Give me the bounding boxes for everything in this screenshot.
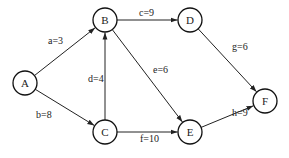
node-label-F: F xyxy=(262,95,268,107)
edge-label-c: c=9 xyxy=(139,7,154,18)
node-B: B xyxy=(93,8,117,32)
graph-diagram: a=3b=8c=9d=4e=6f=10g=6h=9 ABCDEF xyxy=(0,0,289,158)
edge-label-a: a=3 xyxy=(48,35,63,46)
nodes-layer: ABCDEF xyxy=(13,8,277,144)
edge-e-arrow xyxy=(112,30,182,122)
edge-a-arrow xyxy=(34,28,95,76)
edge-label-b: b=8 xyxy=(36,109,52,120)
node-label-A: A xyxy=(21,77,29,89)
edge-label-e: e=6 xyxy=(153,64,168,75)
graph-canvas: a=3b=8c=9d=4e=6f=10g=6h=9 ABCDEF xyxy=(0,0,289,158)
node-label-C: C xyxy=(101,126,108,138)
node-E: E xyxy=(178,120,202,144)
node-label-E: E xyxy=(187,126,194,138)
node-D: D xyxy=(178,8,202,32)
edge-g-arrow xyxy=(198,29,256,92)
edge-label-g: g=6 xyxy=(232,41,248,52)
node-F: F xyxy=(253,89,277,113)
edges-layer: a=3b=8c=9d=4e=6f=10g=6h=9 xyxy=(34,7,256,144)
edge-label-h: h=9 xyxy=(232,107,248,118)
edge-b-arrow xyxy=(35,89,94,125)
node-label-D: D xyxy=(186,14,194,26)
edge-label-d: d=4 xyxy=(88,73,104,84)
node-label-B: B xyxy=(101,14,108,26)
node-C: C xyxy=(93,120,117,144)
edge-label-f: f=10 xyxy=(140,133,159,144)
node-A: A xyxy=(13,71,37,95)
